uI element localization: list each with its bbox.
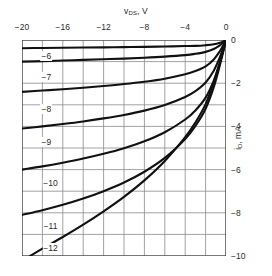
y-axis-title-subscript: D (237, 144, 243, 148)
chart-figure: vDS, V −20−16−12−8−40 0−2−4−6−8−10 iD, m… (0, 0, 272, 276)
y-axis-title: iD, mA (233, 126, 243, 150)
y-axis-title-main: i (233, 148, 243, 150)
curve-label: −10 (42, 178, 58, 188)
y-tick-label: 0 (231, 35, 236, 45)
curve-label: −9 (41, 137, 53, 147)
y-tick-label: −10 (231, 251, 245, 261)
y-tick-label: −2 (231, 78, 241, 88)
curve-label: −7 (41, 72, 53, 82)
y-tick-label: −8 (231, 208, 241, 218)
curve-label: −8 (41, 104, 53, 114)
y-tick-label: −6 (231, 165, 241, 175)
curve-label: −6 (41, 51, 53, 61)
curve-label: −12 (42, 243, 58, 253)
curve-label: −11 (43, 221, 59, 231)
y-axis-title-unit: , mA (233, 126, 243, 143)
